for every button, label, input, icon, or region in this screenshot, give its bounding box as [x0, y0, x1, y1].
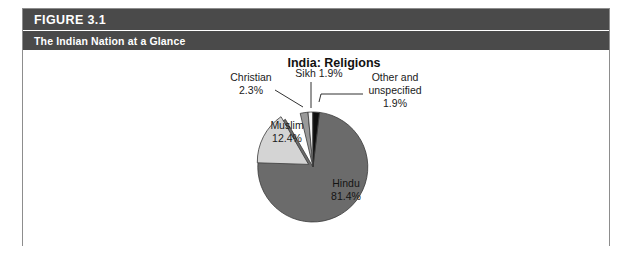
leader-line-christian [275, 90, 303, 107]
figure-subtitle-band: The Indian Nation at a Glance [23, 31, 609, 50]
pie-label-other-line2: unspecified [368, 84, 421, 96]
chart-area: India: Religions Hindu 81.4 [23, 50, 609, 246]
figure-box: FIGURE 3.1 The Indian Nation at a Glance… [22, 8, 610, 246]
pie-label-hindu-name: Hindu [332, 177, 360, 189]
pie-label-christian-name: Christian [230, 71, 272, 83]
leader-line-other [319, 94, 363, 102]
pie-label-muslim-name: Muslim [270, 119, 304, 131]
figure-subtitle-label: The Indian Nation at a Glance [23, 35, 185, 47]
pie-label-hindu-value: 81.4% [331, 190, 361, 202]
figure-number-label: FIGURE 3.1 [23, 13, 106, 27]
figure-number-band: FIGURE 3.1 [23, 9, 609, 30]
pie-label-other-value: 1.9% [383, 97, 407, 109]
figure-screenshot: FIGURE 3.1 The Indian Nation at a Glance… [0, 0, 630, 255]
pie-label-muslim-value: 12.4% [272, 132, 302, 144]
pie-chart: Hindu 81.4% Muslim 12.4% Christian 2.3% … [23, 50, 611, 246]
pie-label-christian-value: 2.3% [239, 84, 263, 96]
pie-label-other-line1: Other and [372, 71, 419, 83]
pie-label-sikh: Sikh 1.9% [295, 67, 342, 79]
